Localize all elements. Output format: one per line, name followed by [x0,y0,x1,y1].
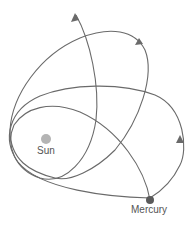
orbit-tilted [10,31,148,179]
orbit-diagram [0,0,194,227]
mercury-label: Mercury [131,204,167,215]
sun-body [41,134,51,144]
orbit-steep [11,15,150,200]
sun-label: Sun [37,145,55,156]
mercury-body [146,196,154,204]
